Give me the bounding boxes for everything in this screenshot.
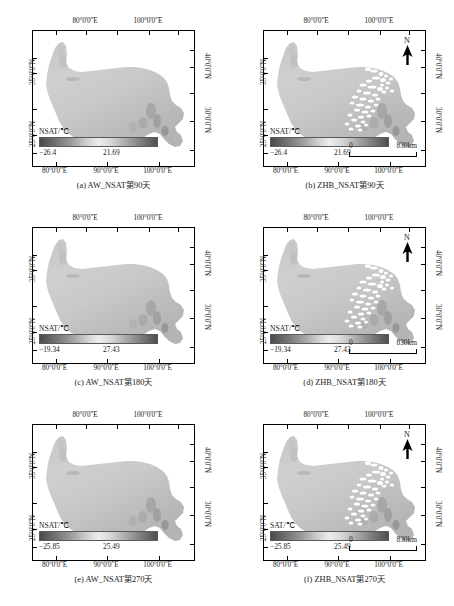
- tick-top: [317, 228, 318, 232]
- axis-label-longitude-bottom: 80°0'0"E: [273, 167, 298, 175]
- tick-left: [264, 306, 268, 307]
- axis-label-longitude-bottom: 80°0'0"E: [273, 364, 298, 372]
- tick-top: [380, 228, 381, 232]
- tick-top: [56, 228, 57, 232]
- tick-top: [56, 31, 57, 35]
- axis-label-longitude-top: 80°0'0"E: [73, 411, 98, 419]
- scale-bar-zero-label: 0: [349, 535, 353, 544]
- colorbar-min-label: −25.85: [270, 542, 291, 551]
- north-arrow-group: N: [398, 233, 416, 262]
- axis-label-longitude-bottom: 100°0'0"E: [374, 167, 403, 175]
- scale-bar-max-label: 830km: [396, 141, 417, 150]
- tick-right: [190, 264, 194, 265]
- scale-bar: 0830km: [349, 535, 417, 551]
- axis-label-latitude-left: 25°0'0"N: [260, 121, 268, 147]
- map-frame-b: NSAT/℃−26.421.690830kmN: [263, 30, 426, 167]
- axis-label-longitude-bottom: 90°0'0"E: [94, 167, 119, 175]
- axis-label-latitude-right: 40°0'0"N: [434, 448, 442, 474]
- tick-right: [421, 247, 425, 248]
- axis-label-latitude-right: 40°0'0"N: [434, 251, 442, 277]
- panel-caption-d: (d) ZHB_NSAT第180天: [231, 375, 454, 387]
- tick-bottom: [56, 556, 57, 560]
- tick-top: [348, 228, 349, 232]
- axis-label-longitude-bottom: 80°0'0"E: [273, 561, 298, 569]
- tick-top: [409, 228, 410, 232]
- colorbar-ticks: −19.3427.43: [39, 344, 171, 355]
- tick-right: [421, 264, 425, 265]
- tick-right: [421, 544, 425, 545]
- tick-left: [33, 153, 37, 154]
- axis-label-longitude-top: 100°0'0"E: [134, 214, 163, 222]
- axis-label-latitude-right: 30°0'0"N: [203, 305, 211, 331]
- tick-bottom: [338, 162, 339, 166]
- scale-bar-line: [349, 349, 417, 354]
- north-arrow-group: N: [398, 430, 416, 459]
- tick-left: [264, 503, 268, 504]
- tick-bottom: [287, 556, 288, 560]
- map-panel-b: NSAT/℃−26.421.690830kmN80°0'0"E100°0'0"E…: [227, 0, 454, 202]
- tick-bottom: [159, 556, 160, 560]
- north-arrow-icon: [402, 45, 413, 65]
- axis-label-longitude-bottom: 90°0'0"E: [325, 167, 350, 175]
- axis-label-latitude-right: 30°0'0"N: [434, 108, 442, 134]
- panel-caption-c: (c) AW_NSAT第180天: [0, 375, 227, 387]
- tick-top: [348, 425, 349, 429]
- colorbar-title: NSAT/℃: [270, 324, 402, 333]
- figure-row-1: NSAT/℃−26.421.6980°0'0"E100°0'0"E80°0'0"…: [0, 0, 454, 202]
- colorbar-max-label: 25.49: [103, 542, 120, 551]
- colorbar-min-label: −19.34: [39, 345, 60, 354]
- axis-label-longitude-bottom: 100°0'0"E: [143, 167, 172, 175]
- tick-bottom: [56, 359, 57, 363]
- tick-right: [421, 121, 425, 122]
- axis-label-longitude-bottom: 80°0'0"E: [42, 561, 67, 569]
- colorbar-ticks: −26.421.69: [39, 147, 171, 158]
- tick-left: [264, 547, 268, 548]
- axis-label-longitude-top: 100°0'0"E: [365, 411, 394, 419]
- tick-right: [421, 290, 425, 291]
- tick-top: [317, 31, 318, 35]
- axis-label-longitude-bottom: 80°0'0"E: [42, 364, 67, 372]
- tick-right: [421, 150, 425, 151]
- axis-label-latitude-right: 40°0'0"N: [434, 54, 442, 80]
- tick-bottom: [390, 162, 391, 166]
- map-panel-e: NSAT/℃−25.8525.4980°0'0"E100°0'0"E80°0'0…: [0, 394, 227, 596]
- tick-right: [190, 150, 194, 151]
- scale-bar-labels: 0830km: [349, 535, 417, 546]
- north-label: N: [398, 430, 416, 439]
- tick-right: [421, 461, 425, 462]
- tick-bottom: [159, 359, 160, 363]
- colorbar-title: NSAT/℃: [39, 127, 171, 136]
- map-frame-c: NSAT/℃−19.3427.43: [32, 227, 195, 364]
- axis-label-latitude-left: 35°0'0"N: [29, 59, 37, 85]
- tick-top: [117, 425, 118, 429]
- tick-bottom: [338, 359, 339, 363]
- colorbar-title: NSAT/℃: [39, 324, 171, 333]
- tick-right: [190, 515, 194, 516]
- map-panel-c: NSAT/℃−19.3427.4380°0'0"E100°0'0"E80°0'0…: [0, 197, 227, 399]
- axis-label-latitude-right: 30°0'0"N: [203, 502, 211, 528]
- axis-label-latitude-left: 25°0'0"N: [29, 515, 37, 541]
- scale-bar-zero-label: 0: [349, 338, 353, 347]
- colorbar-max-label: 27.43: [103, 345, 120, 354]
- colorbar-ticks: −25.8525.49: [39, 541, 171, 552]
- axis-label-latitude-left: 25°0'0"N: [29, 121, 37, 147]
- figure-row-2: NSAT/℃−19.3427.4380°0'0"E100°0'0"E80°0'0…: [0, 197, 454, 399]
- axis-label-longitude-bottom: 100°0'0"E: [143, 364, 172, 372]
- north-arrow-group: N: [398, 36, 416, 65]
- axis-label-longitude-top: 80°0'0"E: [304, 17, 329, 25]
- scale-bar-line: [349, 152, 417, 157]
- tick-right: [190, 67, 194, 68]
- axis-label-latitude-right: 40°0'0"N: [203, 448, 211, 474]
- tick-bottom: [338, 556, 339, 560]
- tick-left: [264, 153, 268, 154]
- axis-label-latitude-left: 25°0'0"N: [29, 318, 37, 344]
- scale-bar-labels: 0830km: [349, 141, 417, 152]
- axis-label-longitude-top: 80°0'0"E: [304, 214, 329, 222]
- map-panel-d: NSAT/℃−19.3427.430830kmN80°0'0"E100°0'0"…: [227, 197, 454, 399]
- axis-label-latitude-right: 30°0'0"N: [434, 305, 442, 331]
- axis-label-latitude-right: 30°0'0"N: [203, 108, 211, 134]
- tick-bottom: [390, 556, 391, 560]
- axis-label-longitude-top: 80°0'0"E: [73, 17, 98, 25]
- north-label: N: [398, 36, 416, 45]
- colorbar-max-label: 21.69: [103, 148, 120, 157]
